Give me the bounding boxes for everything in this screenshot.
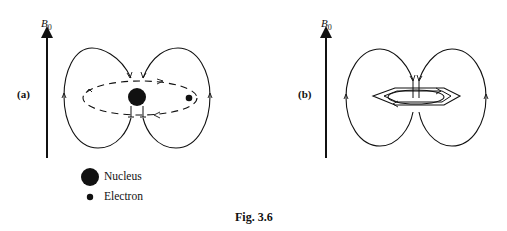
b0-subscript-a: 0 [48, 23, 52, 32]
legend-electron-label: Electron [104, 190, 143, 202]
panel-a-label: (a) [17, 88, 30, 100]
panel-b-label: (b) [298, 88, 311, 100]
induced-field-line-left-a [64, 48, 131, 148]
nucleus [128, 88, 146, 106]
figure-caption: Fig. 3.6 [235, 210, 273, 225]
b0-symbol-b: B [321, 17, 328, 29]
induced-field-line-left-b [346, 49, 413, 146]
induced-field-line-right-b [419, 49, 486, 146]
legend-nucleus-label: Nucleus [104, 170, 142, 182]
legend-electron-symbol [87, 194, 93, 200]
legend-nucleus-symbol [81, 168, 99, 186]
legend [81, 168, 99, 200]
panel-b [326, 32, 488, 158]
b0-subscript-b: 0 [328, 23, 332, 32]
orbit-arrow-bottom [154, 112, 160, 118]
panel-a [47, 32, 212, 158]
b0-label-a: B0 [41, 17, 52, 32]
figure-artwork [0, 0, 507, 231]
b0-symbol-a: B [41, 17, 48, 29]
b0-label-b: B0 [321, 17, 332, 32]
electron [186, 95, 193, 102]
induced-field-line-right-a [143, 48, 210, 148]
